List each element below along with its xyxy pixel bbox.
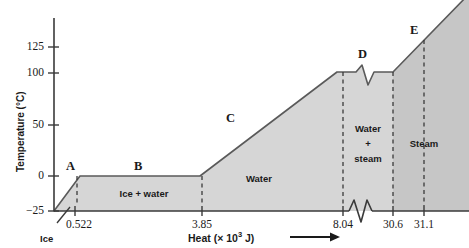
x-tick-label-804: 8.04 bbox=[323, 219, 363, 231]
segment-label-d: D bbox=[358, 48, 367, 61]
phase-label-water: Water bbox=[229, 174, 289, 184]
x-tick-label-385: 3.85 bbox=[182, 219, 222, 231]
x-tick-label-0522: 0.522 bbox=[57, 219, 101, 231]
phase-label-water-steam-line3: steam bbox=[340, 154, 396, 164]
x-axis-label-prefix: Heat (× 10 bbox=[188, 232, 238, 244]
chart-figure: Temperature (°C) 125 100 50 0 −25 0.522 … bbox=[0, 0, 469, 248]
y-tick-label-100: 100 bbox=[6, 67, 44, 79]
y-axis-label: Temperature (°C) bbox=[16, 92, 26, 173]
segment-label-e: E bbox=[410, 24, 418, 37]
segment-label-c: C bbox=[226, 112, 235, 125]
x-axis-label-suffix: J) bbox=[242, 232, 254, 244]
y-tick-label-125: 125 bbox=[6, 41, 44, 53]
segment-label-a: A bbox=[66, 160, 75, 173]
y-tick-label-neg25: −25 bbox=[6, 205, 44, 217]
area-fill-steam bbox=[393, 0, 469, 211]
phase-label-steam: Steam bbox=[398, 139, 450, 149]
segment-label-b: B bbox=[134, 160, 142, 173]
y-tick-label-50: 50 bbox=[6, 119, 44, 131]
x-axis-arrow-icon bbox=[290, 233, 340, 242]
phase-label-ice-water: Ice + water bbox=[98, 189, 190, 199]
y-tick-label-0: 0 bbox=[6, 170, 44, 182]
phase-label-ice-axis: Ice bbox=[40, 234, 53, 244]
x-axis-label: Heat (× 103 J) bbox=[188, 231, 254, 243]
phase-label-water-steam-line2: + bbox=[340, 139, 396, 149]
phase-label-water-steam-line1: Water bbox=[340, 124, 396, 134]
x-tick-label-311: 31.1 bbox=[404, 219, 444, 231]
